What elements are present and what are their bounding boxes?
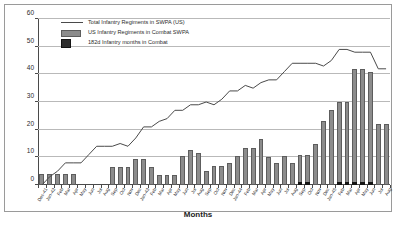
chart-legend: Total Infantry Regiments in SWPA (US) US… (61, 17, 189, 47)
dark-swatch-icon (61, 39, 83, 46)
x-axis-tick-label: Sep (298, 187, 306, 197)
x-axis-tick-label: May (173, 187, 182, 197)
x-axis-tick-label: Aug (384, 187, 392, 197)
x-axis-tick-label: Feb (243, 187, 251, 196)
legend-item-label: Total Infantry Regiments in SWPA (US) (88, 19, 185, 25)
y-axis-tick-label: 20 (27, 119, 34, 126)
y-axis-tick-label: 10 (27, 147, 34, 154)
y-axis-tick-label: 50 (27, 36, 34, 43)
chart-frame: 0102030405060 Dec-41Jan-42FebMarAprMayJu… (4, 4, 392, 212)
x-axis-tick-label: Oct (119, 187, 127, 196)
x-axis-tick-label: Jun (181, 187, 189, 196)
line-key-icon (61, 19, 83, 26)
x-axis-title: Months (5, 210, 391, 219)
x-axis-tick-label: Oct (212, 187, 220, 196)
x-axis-tick-label: Jun (87, 187, 95, 196)
x-axis-tick-label: Nov (314, 187, 322, 197)
x-axis-tick-label: Aug (196, 187, 204, 197)
x-axis-tick-label: Aug (102, 187, 110, 197)
x-axis-tick-label: Aug (290, 187, 298, 197)
x-axis-tick-label: Nov (126, 187, 134, 197)
x-axis-tick-label: May (79, 187, 88, 197)
x-axis-tick-label: Mar (251, 187, 259, 196)
x-axis-tick-label: Sep (204, 187, 212, 197)
hatched-swatch-icon (61, 29, 83, 36)
legend-item-182d-months-combat: 182d Infantry months in Combat (61, 37, 189, 47)
x-axis-tick-label: Mar (63, 187, 71, 196)
y-axis-tick-label: 0 (30, 175, 34, 182)
y-axis-tick-label: 40 (27, 64, 34, 71)
legend-item-regiments-in-combat: US Infantry Regiments in Combat SWPA (61, 27, 189, 37)
x-axis-tick-label: Feb (149, 187, 157, 196)
legend-item-total-regiments: Total Infantry Regiments in SWPA (US) (61, 17, 189, 27)
total-regiments-line (42, 49, 386, 185)
y-axis-tick-label: 60 (27, 9, 34, 16)
x-axis-tick-label: Jun (369, 187, 377, 196)
x-axis-tick-label: Mar (345, 187, 353, 196)
x-axis-tick-label: Sep (110, 187, 118, 197)
legend-item-label: 182d Infantry months in Combat (88, 39, 168, 45)
y-axis-tick-label: 30 (27, 92, 34, 99)
x-axis-tick-label: May (266, 187, 275, 197)
x-axis-tick-label: Nov (220, 187, 228, 197)
legend-item-label: US Infantry Regiments in Combat SWPA (88, 29, 189, 35)
x-axis-tick-label: Jun (275, 187, 283, 196)
x-axis-tick-label: Feb (56, 187, 64, 196)
x-axis-tick-label: Feb (337, 187, 345, 196)
x-axis-tick-label: Oct (306, 187, 314, 196)
x-axis-tick-label: Mar (157, 187, 165, 196)
